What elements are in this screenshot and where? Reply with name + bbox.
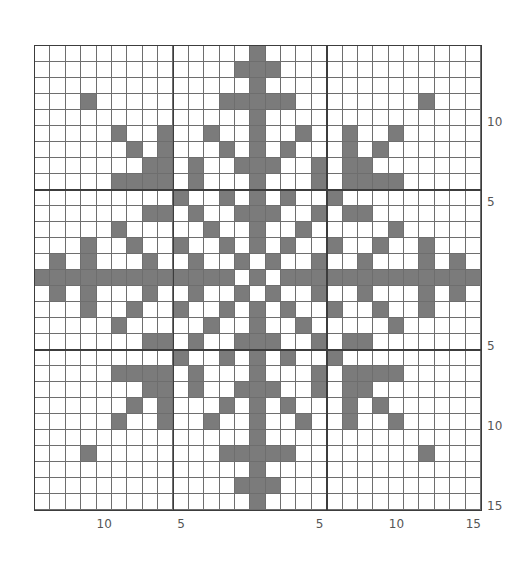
filled-cell (97, 270, 112, 286)
filled-cell (389, 126, 404, 142)
empty-cell (235, 238, 250, 254)
empty-cell (127, 62, 142, 78)
empty-cell (112, 190, 127, 206)
empty-cell (143, 222, 158, 238)
filled-cell (373, 366, 388, 382)
empty-cell (173, 478, 188, 494)
empty-cell (220, 462, 235, 478)
empty-cell (35, 430, 50, 446)
empty-cell (81, 318, 96, 334)
empty-cell (450, 94, 465, 110)
empty-cell (127, 334, 142, 350)
empty-cell (466, 350, 481, 366)
empty-cell (81, 78, 96, 94)
empty-cell (466, 190, 481, 206)
empty-cell (127, 494, 142, 510)
empty-cell (97, 158, 112, 174)
empty-cell (389, 206, 404, 222)
empty-cell (466, 414, 481, 430)
filled-cell (81, 254, 96, 270)
empty-cell (143, 398, 158, 414)
filled-cell (235, 62, 250, 78)
empty-cell (343, 350, 358, 366)
filled-cell (250, 414, 265, 430)
empty-cell (466, 382, 481, 398)
empty-cell (312, 94, 327, 110)
empty-cell (81, 46, 96, 62)
empty-cell (435, 318, 450, 334)
filled-cell (143, 286, 158, 302)
empty-cell (112, 110, 127, 126)
empty-cell (327, 334, 342, 350)
empty-cell (81, 366, 96, 382)
empty-cell (389, 478, 404, 494)
filled-cell (204, 318, 219, 334)
filled-cell (358, 158, 373, 174)
empty-cell (450, 478, 465, 494)
empty-cell (81, 494, 96, 510)
filled-cell (358, 270, 373, 286)
empty-cell (450, 462, 465, 478)
empty-cell (81, 478, 96, 494)
empty-cell (50, 414, 65, 430)
snowflake-chart: 10551015 10551015 (0, 0, 525, 567)
filled-cell (143, 366, 158, 382)
empty-cell (466, 126, 481, 142)
filled-cell (250, 190, 265, 206)
empty-cell (81, 382, 96, 398)
empty-cell (373, 286, 388, 302)
empty-cell (312, 462, 327, 478)
empty-cell (266, 350, 281, 366)
empty-cell (189, 414, 204, 430)
empty-cell (204, 238, 219, 254)
empty-cell (35, 462, 50, 478)
empty-cell (435, 494, 450, 510)
filled-cell (281, 302, 296, 318)
filled-cell (250, 270, 265, 286)
empty-cell (50, 62, 65, 78)
empty-cell (97, 430, 112, 446)
empty-cell (235, 414, 250, 430)
empty-cell (389, 382, 404, 398)
filled-cell (435, 270, 450, 286)
empty-cell (173, 78, 188, 94)
empty-cell (112, 238, 127, 254)
empty-cell (158, 494, 173, 510)
empty-cell (450, 318, 465, 334)
empty-cell (343, 478, 358, 494)
empty-cell (112, 94, 127, 110)
empty-cell (204, 78, 219, 94)
empty-cell (143, 238, 158, 254)
empty-cell (50, 94, 65, 110)
empty-cell (50, 430, 65, 446)
empty-cell (373, 254, 388, 270)
empty-cell (419, 46, 434, 62)
empty-cell (389, 158, 404, 174)
filled-cell (127, 366, 142, 382)
empty-cell (266, 302, 281, 318)
empty-cell (112, 78, 127, 94)
empty-cell (204, 190, 219, 206)
filled-cell (235, 446, 250, 462)
empty-cell (266, 142, 281, 158)
filled-cell (158, 206, 173, 222)
empty-cell (466, 222, 481, 238)
empty-cell (97, 206, 112, 222)
empty-cell (281, 414, 296, 430)
empty-cell (358, 462, 373, 478)
empty-cell (173, 334, 188, 350)
empty-cell (327, 494, 342, 510)
filled-cell (220, 302, 235, 318)
empty-cell (143, 110, 158, 126)
empty-cell (389, 62, 404, 78)
empty-cell (50, 206, 65, 222)
empty-cell (312, 414, 327, 430)
empty-cell (127, 254, 142, 270)
empty-cell (112, 398, 127, 414)
empty-cell (404, 222, 419, 238)
empty-cell (404, 110, 419, 126)
empty-cell (343, 302, 358, 318)
empty-cell (189, 46, 204, 62)
empty-cell (35, 318, 50, 334)
filled-cell (127, 174, 142, 190)
